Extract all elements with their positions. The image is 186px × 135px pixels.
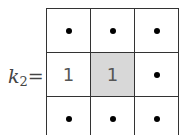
equals-sign: = (28, 65, 44, 87)
dot-icon (110, 116, 116, 122)
kernel-cell-0-0 (47, 9, 91, 53)
dot-icon (154, 28, 160, 34)
kernel-cell-2-2 (135, 97, 179, 135)
kernel-label: k2= (8, 65, 44, 89)
kernel-cell-0-1 (91, 9, 135, 53)
kernel-grid: 11 (46, 8, 179, 135)
kernel-cell-1-0: 1 (47, 53, 91, 97)
dot-icon (154, 72, 160, 78)
kernel-cell-2-0 (47, 97, 91, 135)
dot-icon (66, 28, 72, 34)
kernel-variable: k (8, 65, 20, 87)
kernel-cell-1-1: 1 (91, 53, 135, 97)
kernel-cell-0-2 (135, 9, 179, 53)
kernel-cell-2-1 (91, 97, 135, 135)
dot-icon (110, 28, 116, 34)
dot-icon (66, 116, 72, 122)
dot-icon (154, 116, 160, 122)
kernel-subscript: 2 (20, 74, 28, 89)
kernel-cell-1-2 (135, 53, 179, 97)
